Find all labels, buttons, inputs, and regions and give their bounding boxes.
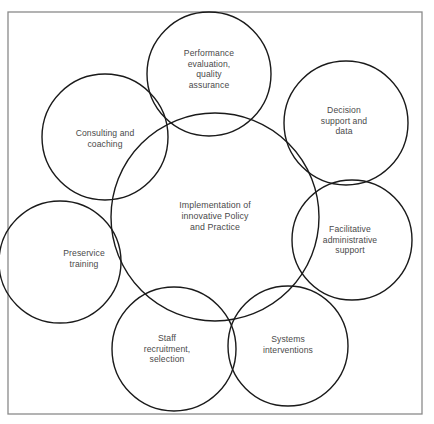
label-decision-support: Decision support and data xyxy=(321,105,368,137)
label-systems-interventions: Systems interventions xyxy=(263,334,313,355)
label-preservice-training: Preservice training xyxy=(63,248,105,269)
label-consulting-coaching: Consulting and coaching xyxy=(76,128,135,149)
label-staff-recruitment: Staff recruitment, selection xyxy=(144,333,191,365)
label-performance-evaluation: Performance evaluation, quality assuranc… xyxy=(184,48,234,90)
label-facilitative-support: Facilitative administrative support xyxy=(323,224,377,256)
center-label-implementation: Implementation of innovative Policy and … xyxy=(179,200,251,233)
